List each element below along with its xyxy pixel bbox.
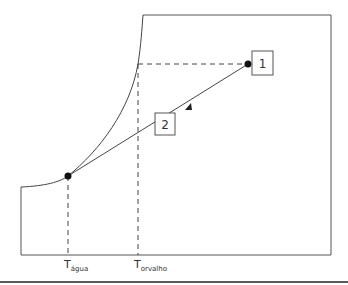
arrow-head-icon — [185, 103, 192, 110]
label-1: 1 — [259, 57, 267, 71]
state-point-1 — [245, 61, 252, 68]
label-2: 2 — [161, 118, 169, 132]
state-point-water — [65, 173, 72, 180]
t-agua-label: Tágua — [63, 258, 88, 273]
saturation-curve — [21, 15, 143, 187]
chart-frame — [21, 15, 331, 255]
psychrometric-diagram: 1 2 Tágua Torvalho — [0, 0, 348, 285]
t-orvalho-label: Torvalho — [133, 258, 167, 273]
